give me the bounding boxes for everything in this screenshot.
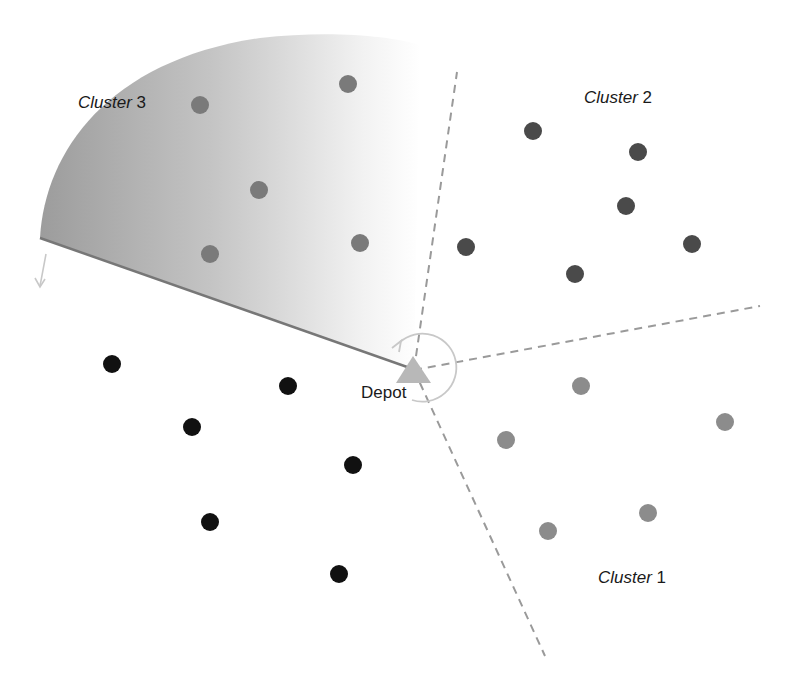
depot-label: Depot: [361, 383, 406, 403]
customer-point: [539, 522, 557, 540]
cluster-2-label: Cluster 2: [584, 88, 652, 108]
customer-point: [457, 238, 475, 256]
customer-point: [103, 355, 121, 373]
sweep-sector: [40, 34, 420, 370]
customer-point: [639, 504, 657, 522]
customer-point: [330, 565, 348, 583]
customer-point: [201, 513, 219, 531]
boundary-line-1-2: [414, 306, 760, 370]
customer-point: [201, 245, 219, 263]
customer-point: [344, 456, 362, 474]
cluster-1-label: Cluster 1: [598, 568, 666, 588]
cluster-3-label: Cluster 3: [78, 93, 146, 113]
customer-point: [617, 197, 635, 215]
boundary-line-1: [414, 370, 545, 656]
customer-point: [279, 377, 297, 395]
customer-point: [497, 431, 515, 449]
customer-point: [183, 418, 201, 436]
boundary-line-2-3: [414, 72, 457, 370]
customer-point: [250, 181, 268, 199]
customer-point: [191, 96, 209, 114]
customer-point: [683, 235, 701, 253]
customer-point: [572, 377, 590, 395]
customer-point: [629, 143, 647, 161]
customer-point: [524, 122, 542, 140]
customer-point: [351, 234, 369, 252]
customer-point: [716, 413, 734, 431]
customer-point: [339, 75, 357, 93]
customer-point: [566, 265, 584, 283]
